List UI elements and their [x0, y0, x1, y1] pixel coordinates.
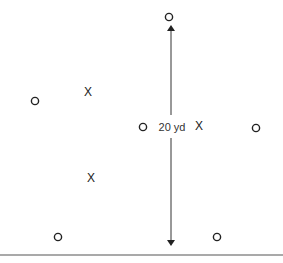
defense-player-x1: X: [84, 85, 92, 99]
offense-player-o4: [252, 124, 259, 131]
offense-player-o3: [139, 123, 146, 130]
players-layer: XXX: [31, 13, 259, 240]
offense-player-o1: [165, 13, 172, 20]
offense-player-o2: [31, 97, 38, 104]
defense-player-x2: X: [195, 119, 203, 133]
offense-player-o6: [213, 233, 220, 240]
diagram-canvas: 20 yd XXX: [0, 0, 283, 263]
offense-player-o5: [54, 233, 61, 240]
distance-label: 20 yd: [159, 121, 186, 133]
defense-player-x3: X: [87, 171, 95, 185]
play-diagram: 20 yd XXX: [0, 0, 283, 263]
